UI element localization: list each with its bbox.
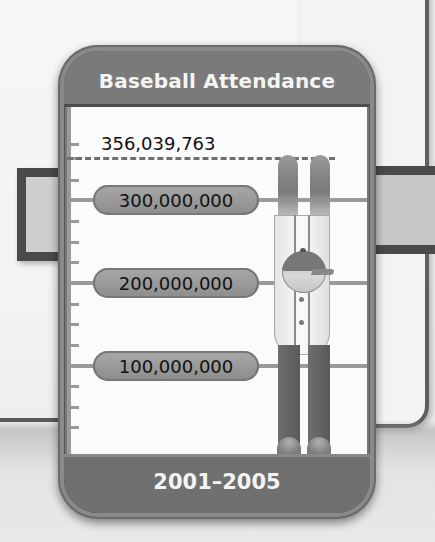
- plot-area: 356,039,763 300,000,000 200,000,000 100,…: [67, 107, 367, 454]
- attendance-card: Baseball Attendance 356,039,763 300,000,: [58, 45, 376, 519]
- card-frame: Baseball Attendance 356,039,763 300,000,: [64, 51, 370, 513]
- y-tick: [67, 406, 79, 409]
- y-label-100m: 100,000,000: [93, 351, 259, 381]
- y-tick: [67, 220, 79, 223]
- total-attendance-label: 356,039,763: [101, 133, 216, 154]
- y-tick: [67, 385, 79, 388]
- y-tick: [67, 261, 79, 264]
- cap-brim: [311, 269, 335, 275]
- chart-title: Baseball Attendance: [99, 69, 335, 93]
- y-label-200m: 200,000,000: [93, 268, 259, 298]
- y-tick: [67, 323, 79, 326]
- cap-button: [300, 248, 306, 252]
- shirt-button: [299, 297, 304, 302]
- y-tick: [67, 344, 79, 347]
- player-cap: [282, 251, 326, 271]
- y-tick: [67, 426, 79, 429]
- shirt-button: [299, 320, 304, 325]
- y-tick: [67, 303, 79, 306]
- background-connector-right: [372, 166, 435, 254]
- y-tick: [67, 143, 79, 146]
- y-tick: [67, 241, 79, 244]
- y-label-300m: 300,000,000: [93, 185, 259, 215]
- period-label: 2001–2005: [153, 470, 280, 494]
- player-right-shoe: [307, 437, 331, 455]
- player-left-arm: [278, 155, 298, 215]
- period-bar: 2001–2005: [64, 454, 370, 513]
- baseball-player-icon: [274, 155, 340, 455]
- player-right-arm: [310, 155, 330, 215]
- player-left-shoe: [277, 437, 301, 455]
- title-bar: Baseball Attendance: [64, 51, 370, 107]
- y-tick: [67, 179, 79, 182]
